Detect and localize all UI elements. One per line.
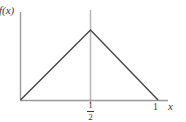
- figure-container: f(x) x 1 1 2: [0, 0, 186, 122]
- fraction-denominator: 2: [84, 113, 97, 122]
- x-tick-label-one-half: 1 2: [84, 101, 97, 122]
- fraction-numerator: 1: [84, 101, 97, 110]
- x-tick-label-one: 1: [153, 102, 158, 112]
- x-axis-label: x: [168, 101, 173, 112]
- y-axis-label: f(x): [0, 5, 14, 16]
- triangular-density-curve: [21, 30, 159, 100]
